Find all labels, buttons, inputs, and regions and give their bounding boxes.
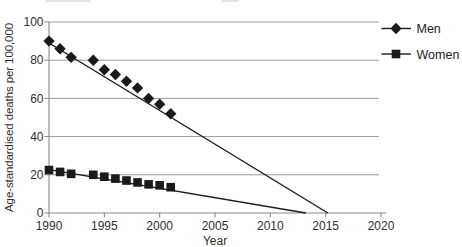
x-axis-title: Year [203,234,227,247]
women-data-marker [67,170,76,179]
y-tick-label: 80 [30,53,44,67]
x-tick-label: 2010 [257,219,284,233]
x-tick-label: 2005 [202,219,229,233]
men-data-marker [143,93,154,104]
women-data-marker [100,172,109,181]
legend-men-marker-icon [390,23,401,34]
men-data-marker [132,82,143,93]
x-tick-label: 1995 [91,219,118,233]
legend-label-men: Men [417,22,441,36]
women-data-marker [155,181,164,190]
legend-women-marker-icon [392,50,401,59]
men-data-marker [165,108,176,119]
y-tick-label: 20 [30,168,44,182]
women-data-marker [56,168,65,177]
women-data-marker [122,176,131,185]
x-tick-label: 2015 [312,219,339,233]
women-data-marker [166,183,175,192]
men-data-marker [88,55,99,66]
y-tick-label: 60 [30,92,44,106]
women-data-marker [111,174,120,183]
men-data-marker [110,69,121,80]
x-tick-label: 2020 [368,219,395,233]
line-chart-canvas: 0204060801001990199520002005201020152020… [0,0,462,247]
y-axis-title: Age-standardised deaths per 100,000 [3,23,15,212]
cropped-text-remnant [221,0,239,2]
cropped-text-remnant [45,0,91,2]
y-tick-label: 100 [23,15,43,29]
women-data-marker [133,178,142,187]
x-tick-label: 1990 [36,219,63,233]
men-data-marker [121,76,132,87]
x-tick-label: 2000 [146,219,173,233]
women-data-marker [144,180,153,189]
legend-label-women: Women [417,48,460,62]
y-tick-label: 40 [30,130,44,144]
mortality-trend-figure: 0204060801001990199520002005201020152020… [0,0,462,247]
women-data-marker [89,171,98,180]
men-trend-line [49,43,328,213]
women-data-marker [45,166,54,175]
